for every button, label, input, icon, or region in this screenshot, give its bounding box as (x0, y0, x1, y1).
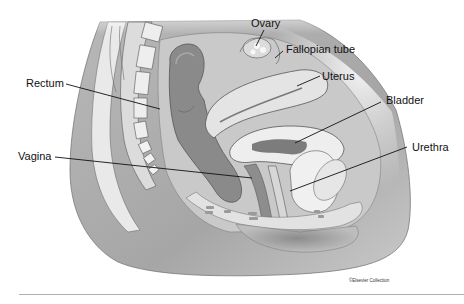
label-urethra: Urethra (412, 141, 449, 153)
label-bladder: Bladder (386, 94, 424, 106)
label-rectum: Rectum (26, 77, 64, 89)
anatomy-illustration (0, 0, 464, 304)
label-ovary: Ovary (251, 17, 280, 29)
caption-divider (19, 294, 464, 295)
label-vagina: Vagina (18, 150, 51, 162)
label-uterus: Uterus (322, 70, 354, 82)
copyright-credit: ©Elsevier Collection (349, 278, 389, 283)
label-fallopian-tube: Fallopian tube (286, 43, 355, 55)
